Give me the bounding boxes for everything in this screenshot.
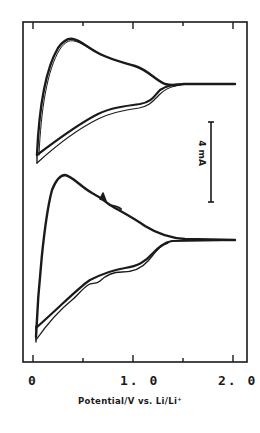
cyclic-voltammogram-figure bbox=[0, 0, 260, 433]
upper-cathodic-curve-2 bbox=[37, 86, 176, 163]
bottom-ticks bbox=[33, 355, 233, 362]
x-tick-label-0: 0 bbox=[28, 373, 38, 388]
x-tick-label-1: 1. 0 bbox=[120, 373, 159, 388]
x-tick-label-2: 2. 0 bbox=[218, 373, 257, 388]
x-axis-label: Potential/V vs. Li/Li⁺ bbox=[0, 396, 260, 406]
upper-anodic-curve-2 bbox=[39, 41, 101, 155]
plot-frame bbox=[23, 22, 247, 362]
lower-anodic-spike bbox=[100, 193, 106, 201]
top-ticks bbox=[33, 22, 233, 29]
lower-cathodic-curve bbox=[36, 240, 235, 328]
lower-anodic-curve bbox=[36, 175, 235, 337]
scale-bar-label: 4 mA bbox=[197, 138, 207, 168]
current-scale-bar bbox=[208, 122, 214, 202]
lower-voltammogram bbox=[36, 175, 235, 342]
